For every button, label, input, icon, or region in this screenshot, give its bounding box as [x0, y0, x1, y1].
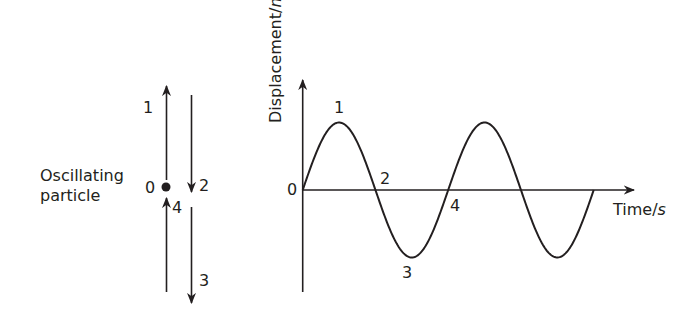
- graph-label-2: 2: [380, 169, 390, 188]
- x-axis-label-main: Time/: [612, 200, 658, 219]
- origin-label: 0: [287, 180, 297, 199]
- x-axis-label-unit: s: [658, 200, 666, 219]
- particle-panel: Oscillating particle 1 2 3 4 0: [40, 86, 209, 303]
- particle-label-2: 2: [199, 176, 209, 195]
- y-axis-label-unit: m: [266, 0, 285, 8]
- particle-label-4: 4: [172, 198, 182, 217]
- caption-line-1: Oscillating: [40, 166, 124, 185]
- graph-label-4: 4: [450, 196, 460, 215]
- caption-line-2: particle: [40, 186, 100, 205]
- particle-label-0: 0: [145, 178, 155, 197]
- particle-label-3: 3: [199, 271, 209, 290]
- particle-label-1: 1: [143, 98, 153, 117]
- y-axis-label: Displacement/m: [266, 0, 285, 123]
- graph-label-3: 3: [402, 263, 412, 282]
- graph-label-1: 1: [334, 98, 344, 117]
- oscillation-diagram: Oscillating particle 1 2 3 4 0 Displacem…: [0, 0, 694, 317]
- y-axis-label-main: Displacement/: [266, 7, 285, 123]
- x-axis-label: Time/s: [612, 200, 666, 219]
- displacement-time-graph: Displacement/m Time/s 0 1 2 3 4: [266, 0, 666, 292]
- particle-dot: [162, 183, 171, 192]
